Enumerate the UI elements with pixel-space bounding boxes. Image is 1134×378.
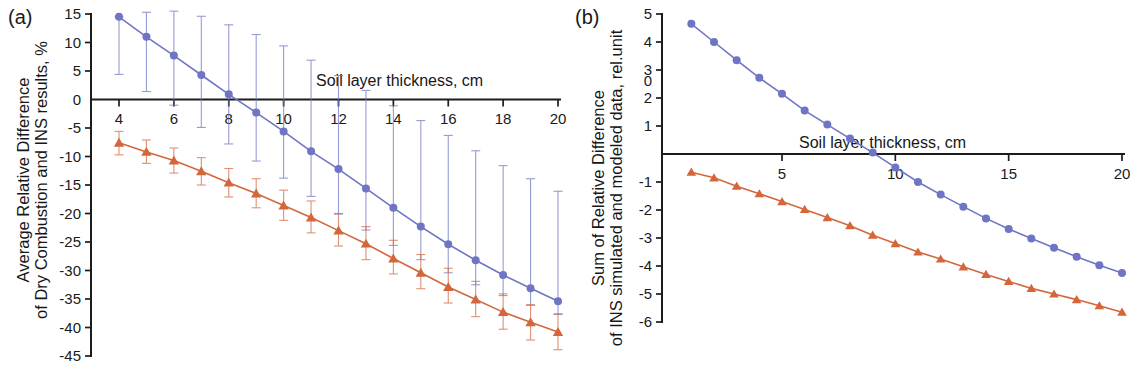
panel-b-y-tick-label: -2 xyxy=(639,201,652,218)
panel-a-x-tick-label: 4 xyxy=(115,110,123,127)
panel-b-marker xyxy=(891,163,899,171)
panel-b-marker xyxy=(778,90,786,98)
panel-a-marker xyxy=(498,307,508,316)
panel-a-x-tick-label: 16 xyxy=(440,110,457,127)
panel-b-y-tick-label: 1 xyxy=(644,117,652,134)
panel-b-marker xyxy=(823,121,831,129)
panel-a-marker xyxy=(361,239,371,248)
panel-b-stray-tick-label: 0 xyxy=(644,72,652,89)
panel-a-y-tick-label: -20 xyxy=(59,205,81,222)
panel-b-x-tick-label: 5 xyxy=(778,165,786,182)
panel-b-marker xyxy=(982,214,990,222)
panel-b-marker xyxy=(914,178,922,186)
panel-a-marker xyxy=(252,109,260,117)
panel-a-marker xyxy=(470,295,480,304)
panel-b-marker xyxy=(710,38,718,46)
panel-b-x-tick-label: 20 xyxy=(1114,165,1131,182)
panel-a-marker xyxy=(142,33,150,41)
panel-b-marker xyxy=(846,135,854,143)
panel-a-marker xyxy=(444,240,452,248)
panel-b-marker xyxy=(801,107,809,115)
panel-a-marker xyxy=(196,166,206,175)
panel-a-marker xyxy=(224,178,234,187)
panel-a-marker xyxy=(170,52,178,60)
panel-b-line-orange-triangles xyxy=(691,172,1122,312)
panel-a-marker xyxy=(225,90,233,98)
panel-a-x-tick-label: 20 xyxy=(550,110,567,127)
panel-b-marker xyxy=(1027,235,1035,243)
panel-a-marker xyxy=(306,212,316,221)
panel-b-marker xyxy=(1118,269,1126,277)
panel-a-marker xyxy=(307,147,315,155)
panel-b-marker xyxy=(959,203,967,211)
panel-a-marker xyxy=(251,189,261,198)
panel-a-marker xyxy=(197,71,205,79)
panel-b-series-orange-triangles xyxy=(687,168,1127,316)
panel-a-marker xyxy=(333,226,343,235)
panel-b-marker xyxy=(1073,253,1081,261)
panel-b-y-tick-label: -1 xyxy=(639,173,652,190)
panel-a: (a) Average Relative Difference of Dry C… xyxy=(0,0,567,378)
panel-a-y-tick-label: -40 xyxy=(59,319,81,336)
panel-b-marker xyxy=(1005,225,1013,233)
panel-a-marker xyxy=(389,204,397,212)
panel-a-y-tick-label: 15 xyxy=(64,5,81,22)
panel-a-marker xyxy=(443,282,453,291)
panel-a-marker xyxy=(499,271,507,279)
panel-b-y-tick-label: 5 xyxy=(644,5,652,22)
panel-b-y-tick-label: -5 xyxy=(639,285,652,302)
panel-a-y-tick-label: 0 xyxy=(73,91,81,108)
figure-container: (a) Average Relative Difference of Dry C… xyxy=(0,0,1134,378)
panel-a-y-tick-label: -25 xyxy=(59,233,81,250)
panel-b-marker xyxy=(868,231,878,239)
panel-a-marker xyxy=(416,268,426,277)
panel-b-x-tick-label: 15 xyxy=(1000,165,1017,182)
panel-a-y-tick-label: 5 xyxy=(73,62,81,79)
panel-a-y-tick-label: 10 xyxy=(64,34,81,51)
panel-a-marker xyxy=(278,201,288,210)
panel-b-y-tick-label: 4 xyxy=(644,33,652,50)
panel-a-marker xyxy=(115,13,123,21)
panel-b-series-blue-circles xyxy=(687,20,1126,277)
panel-a-y-tick-label: -15 xyxy=(59,176,81,193)
panel-b-marker xyxy=(1095,261,1103,269)
panel-b-y-tick-label: -3 xyxy=(639,229,652,246)
panel-a-marker xyxy=(472,256,480,264)
panel-b-marker xyxy=(755,74,763,82)
panel-a-marker xyxy=(527,284,535,292)
panel-a-marker xyxy=(335,165,343,173)
panel-a-marker xyxy=(388,254,398,263)
panel-a-y-tick-label: -45 xyxy=(59,347,81,364)
panel-b-marker xyxy=(733,56,741,64)
panel-a-y-tick-label: -35 xyxy=(59,290,81,307)
panel-a-marker xyxy=(362,184,370,192)
panel-a-y-tick-label: -10 xyxy=(59,148,81,165)
panel-b-y-tick-label: -4 xyxy=(639,257,652,274)
panel-a-marker xyxy=(417,223,425,231)
panel-a-marker xyxy=(114,138,124,147)
panel-a-marker xyxy=(280,127,288,135)
panel-a-y-tick-label: -5 xyxy=(68,119,81,136)
panel-b-marker xyxy=(1050,244,1058,252)
panel-b-plot: 54321-1-2-3-4-5-605101520 xyxy=(567,0,1134,378)
panel-a-y-tick-label: -30 xyxy=(59,262,81,279)
panel-a-marker xyxy=(554,297,562,305)
panel-b-marker xyxy=(937,191,945,199)
panel-b-marker xyxy=(687,168,697,176)
panel-b: (b) Sum of Relative Difference of INS si… xyxy=(567,0,1134,378)
panel-a-x-tick-label: 18 xyxy=(495,110,512,127)
panel-b-axes: 54321-1-2-3-4-5-605101520 xyxy=(639,5,1131,330)
panel-b-marker xyxy=(687,20,695,28)
panel-a-plot: 151050-5-10-15-20-25-30-35-40-4546810121… xyxy=(0,0,567,378)
panel-a-x-tick-label: 6 xyxy=(170,110,178,127)
panel-b-y-tick-label: 2 xyxy=(644,89,652,106)
panel-a-axes: 151050-5-10-15-20-25-30-35-40-4546810121… xyxy=(59,5,566,364)
panel-b-line-blue-circles xyxy=(691,24,1122,273)
panel-b-marker xyxy=(869,149,877,157)
panel-b-y-tick-label: -6 xyxy=(639,313,652,330)
